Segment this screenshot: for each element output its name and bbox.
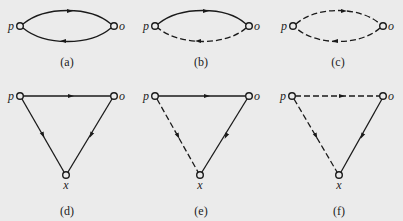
node-label-p: p <box>7 19 14 33</box>
node-p <box>152 93 159 100</box>
node-p <box>152 23 159 30</box>
node-o <box>246 23 253 30</box>
caption-f: (f) <box>333 204 345 218</box>
node-label-x: x <box>196 178 203 192</box>
node-o <box>111 23 118 30</box>
node-o <box>380 23 387 30</box>
node-o <box>380 93 387 100</box>
node-label-o: o <box>388 19 394 33</box>
node-label-p: p <box>7 89 14 103</box>
edge-p-x <box>157 99 198 172</box>
edge-p-x <box>294 99 337 172</box>
edge-p-o-upper <box>296 11 380 25</box>
panel-e: p o x (e) <box>142 89 260 218</box>
node-label-p: p <box>142 19 149 33</box>
panel-a: p o (a) <box>7 11 125 70</box>
edge-o-p-lower <box>158 28 246 42</box>
node-p <box>17 23 24 30</box>
edge-o-x <box>341 99 382 172</box>
panel-f: p o x (f) <box>279 89 394 218</box>
caption-b: (b) <box>194 55 208 69</box>
panel-c: p o (c) <box>280 11 394 70</box>
edge-p-o-upper <box>158 11 246 25</box>
edge-o-x <box>202 99 247 172</box>
panel-d: p o x (d) <box>7 89 125 218</box>
node-o <box>111 93 118 100</box>
node-p <box>289 93 296 100</box>
panel-b: p o (b) <box>142 11 260 70</box>
node-label-p: p <box>280 19 287 33</box>
caption-d: (d) <box>60 204 74 218</box>
balance-diagrams: p o (a) p o (b) p o (c) p <box>0 0 403 221</box>
node-label-o: o <box>388 89 394 103</box>
caption-a: (a) <box>60 55 73 69</box>
node-label-o: o <box>119 19 125 33</box>
edge-o-p-lower <box>23 28 111 42</box>
node-label-p: p <box>142 89 149 103</box>
node-label-x: x <box>62 178 69 192</box>
node-label-p: p <box>279 89 286 103</box>
edge-o-p-lower <box>296 28 380 42</box>
node-p <box>290 23 297 30</box>
edge-p-o-upper <box>23 11 111 25</box>
edge-p-x <box>22 99 64 172</box>
caption-e: (e) <box>194 204 207 218</box>
edge-o-x <box>68 99 112 172</box>
node-o <box>246 93 253 100</box>
caption-c: (c) <box>331 55 344 69</box>
node-p <box>17 93 24 100</box>
node-label-o: o <box>254 19 260 33</box>
node-label-o: o <box>119 89 125 103</box>
node-label-o: o <box>254 89 260 103</box>
node-label-x: x <box>335 178 342 192</box>
